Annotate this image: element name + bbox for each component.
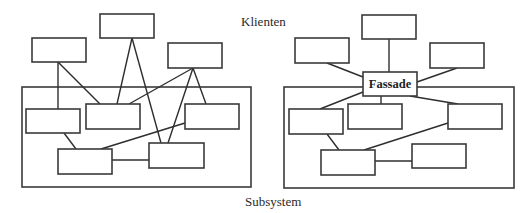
edge-client1-facade xyxy=(327,63,363,77)
facade-label: Fassade xyxy=(363,72,417,96)
right-subsystem-frame xyxy=(284,87,514,188)
left-subsystem-box-3 xyxy=(185,104,239,129)
right-subsystem-box-2 xyxy=(348,104,402,129)
left-diagram xyxy=(22,14,251,187)
edge-client3-sub3 xyxy=(193,68,206,104)
left-client-box-2 xyxy=(100,14,154,38)
right-subsystem-box-5 xyxy=(412,144,466,168)
edge-client1-sub2 xyxy=(58,62,100,104)
right-client-box-1 xyxy=(295,38,349,63)
left-client-box-1 xyxy=(32,38,86,62)
clients-label: Klienten xyxy=(241,15,286,28)
right-client-box-3 xyxy=(430,43,484,68)
right-subsystem-box-1 xyxy=(289,109,343,134)
left-subsystem-box-1 xyxy=(26,109,80,133)
left-subsystem-box-4 xyxy=(58,149,112,174)
subsystem-label: Subsystem xyxy=(245,195,301,208)
edge-client2-sub2 xyxy=(117,38,132,104)
left-subsystem-box-2 xyxy=(86,104,140,129)
right-diagram xyxy=(284,15,514,188)
right-client-box-2 xyxy=(362,15,416,39)
edge-facade-sub3 xyxy=(410,96,458,104)
edge-client3-facade xyxy=(417,68,457,82)
facade-pattern-diagram xyxy=(0,0,532,213)
edge-sub1-sub4 xyxy=(327,134,339,150)
left-client-box-3 xyxy=(168,43,222,68)
edge-sub1-sub4 xyxy=(64,133,76,149)
left-subsystem-box-5 xyxy=(149,143,204,168)
right-subsystem-box-3 xyxy=(448,104,502,129)
right-subsystem-box-4 xyxy=(321,150,375,175)
left-subsystem-frame xyxy=(22,87,251,187)
